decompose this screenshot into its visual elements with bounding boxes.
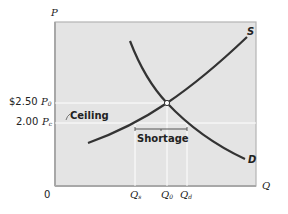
demand-label: D — [248, 155, 256, 165]
supply-label: S — [247, 27, 254, 37]
pc-symbol: Pc — [42, 117, 52, 127]
qs-sym: Q — [130, 189, 138, 200]
shortage-label: Shortage — [137, 134, 189, 144]
qs-sub: s — [138, 193, 141, 200]
x-axis-label: Q — [262, 181, 270, 191]
chart-canvas — [0, 0, 288, 214]
pc-value: 2.00 — [16, 117, 38, 127]
p0-sym: P — [41, 96, 48, 107]
q0-sym: Q — [161, 189, 169, 200]
q0-sub: 0 — [169, 193, 173, 200]
p0-sub: 0 — [48, 100, 52, 107]
supply-demand-chart: P Q 0 S D $2.50 P0 2.00 Pc Qs Q0 Qd Ceil… — [0, 0, 288, 214]
pc-sub: c — [49, 120, 52, 127]
origin-label: 0 — [44, 190, 50, 200]
plot-area — [55, 22, 256, 186]
pc-sym: P — [42, 116, 49, 127]
ceiling-label: Ceiling — [70, 111, 109, 121]
qd-sym: Q — [180, 189, 188, 200]
q0-label: Q0 — [161, 190, 173, 200]
qd-sub: d — [188, 193, 192, 200]
p0-value: $2.50 — [9, 97, 38, 107]
qd-label: Qd — [180, 190, 192, 200]
y-axis-label: P — [51, 8, 58, 18]
p0-symbol: P0 — [41, 97, 52, 107]
qs-label: Qs — [130, 190, 141, 200]
equilibrium-point — [164, 100, 169, 105]
